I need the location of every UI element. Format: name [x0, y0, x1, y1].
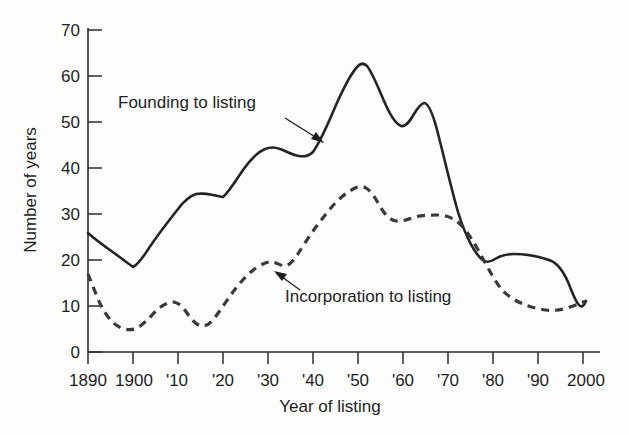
x-tick-label: '50 — [347, 371, 369, 390]
y-tick-label: 20 — [61, 251, 80, 270]
series-incorporation-to-listing — [88, 187, 586, 330]
x-tick-label: '30 — [257, 371, 279, 390]
x-tick-label: '90 — [527, 371, 549, 390]
y-tick-label: 10 — [61, 297, 80, 316]
y-tick-label: 70 — [61, 21, 80, 40]
y-tick-label: 60 — [61, 67, 80, 86]
x-tick-label: 2000 — [567, 371, 605, 390]
x-tick-marks — [88, 352, 583, 364]
x-tick-label: '40 — [302, 371, 324, 390]
y-axis-title: Number of years — [21, 127, 40, 253]
annotation-founding-label: Founding to listing — [118, 93, 256, 112]
x-tick-label: '60 — [392, 371, 414, 390]
y-tick-label: 30 — [61, 205, 80, 224]
annotation-incorporation: Incorporation to listing — [274, 271, 451, 306]
y-tick-label: 0 — [71, 343, 80, 362]
y-tick-label: 40 — [61, 159, 80, 178]
x-axis-title: Year of listing — [279, 397, 380, 416]
chart-figure: 0 10 20 30 40 50 60 70 1890 1900 '10 '20… — [0, 0, 629, 435]
annotation-incorporation-label: Incorporation to listing — [285, 287, 451, 306]
y-tick-label: 50 — [61, 113, 80, 132]
x-tick-label: '10 — [166, 371, 188, 390]
line-chart-svg: 0 10 20 30 40 50 60 70 1890 1900 '10 '20… — [0, 0, 629, 435]
y-tick-labels: 0 10 20 30 40 50 60 70 — [61, 21, 80, 362]
x-tick-label: '80 — [482, 371, 504, 390]
x-tick-labels: 1890 1900 '10 '20 '30 '40 '50 '60 '70 '8… — [69, 371, 605, 390]
x-tick-label: '20 — [212, 371, 234, 390]
x-tick-label: 1900 — [115, 371, 153, 390]
axes-group: 0 10 20 30 40 50 60 70 1890 1900 '10 '20… — [21, 21, 605, 416]
x-tick-label: 1890 — [69, 371, 107, 390]
annotation-founding: Founding to listing — [118, 93, 324, 143]
x-tick-label: '70 — [437, 371, 459, 390]
